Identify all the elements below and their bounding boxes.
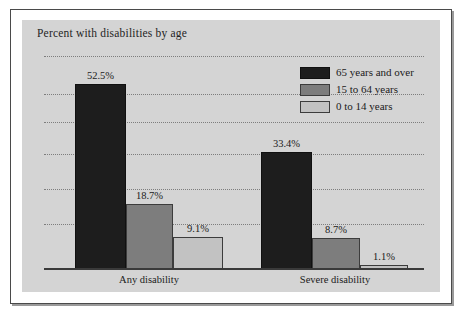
- legend-swatch-icon: [300, 67, 330, 79]
- bar-value-label: 9.1%: [173, 223, 223, 234]
- chart-panel: Percent with disabilities by age 52.5% 1…: [22, 20, 440, 292]
- bar-value-label: 8.7%: [312, 224, 360, 235]
- legend-swatch-icon: [300, 101, 330, 113]
- bar-any-disability-65-and-over[interactable]: [75, 84, 126, 269]
- legend-item-65-and-over[interactable]: 65 years and over: [300, 66, 430, 81]
- bar-any-disability-15-to-64[interactable]: [126, 204, 173, 269]
- x-axis-line: [44, 268, 424, 270]
- legend-item-label: 65 years and over: [336, 66, 414, 78]
- legend-item-label: 0 to 14 years: [336, 100, 393, 112]
- bar-value-label: 33.4%: [261, 138, 312, 149]
- bar-value-label: 1.1%: [360, 251, 408, 262]
- bar-severe-disability-15-to-64[interactable]: [312, 238, 360, 269]
- legend: 65 years and over 15 to 64 years 0 to 14…: [300, 66, 430, 117]
- legend-item-0-to-14[interactable]: 0 to 14 years: [300, 100, 430, 115]
- legend-swatch-icon: [300, 84, 330, 96]
- category-label-any-disability: Any disability: [89, 274, 209, 285]
- category-label-severe-disability: Severe disability: [275, 274, 395, 285]
- legend-item-15-to-64[interactable]: 15 to 64 years: [300, 83, 430, 98]
- bar-value-label: 18.7%: [126, 190, 173, 201]
- gridline: [44, 56, 424, 57]
- figure-frame: Percent with disabilities by age 52.5% 1…: [10, 9, 452, 304]
- bar-value-label: 52.5%: [75, 70, 126, 81]
- plot-area: 52.5% 18.7% 9.1% 33.4% 8.7% 1.1% Any dis…: [22, 20, 440, 292]
- bar-severe-disability-65-and-over[interactable]: [261, 152, 312, 269]
- legend-item-label: 15 to 64 years: [336, 83, 398, 95]
- bar-any-disability-0-to-14[interactable]: [173, 237, 223, 269]
